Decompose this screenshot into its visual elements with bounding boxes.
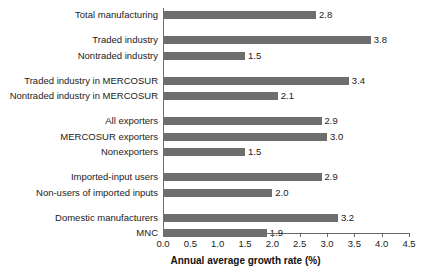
bar-value-label: 2.8 xyxy=(316,7,332,23)
bar-row: 3.4 xyxy=(163,77,409,85)
bar xyxy=(163,173,322,181)
category-label: All exporters xyxy=(0,116,158,126)
category-label: MNC xyxy=(0,228,158,238)
bar xyxy=(163,229,267,237)
x-axis-tick-mark xyxy=(300,233,301,237)
x-axis-tick-mark xyxy=(272,233,273,237)
x-axis-tick-mark xyxy=(409,233,410,237)
bar-row: 1.5 xyxy=(163,148,409,156)
plot-area: 2.83.81.53.42.12.93.01.52.92.03.21.9 xyxy=(163,8,409,233)
category-label: Imported-input users xyxy=(0,172,158,182)
bar-value-label: 3.0 xyxy=(327,129,343,145)
bar-row: 2.8 xyxy=(163,11,409,19)
bar-value-label: 2.9 xyxy=(322,113,338,129)
category-label: Domestic manufacturers xyxy=(0,213,158,223)
bar-value-label: 2.0 xyxy=(272,185,288,201)
bar-row: 2.1 xyxy=(163,92,409,100)
bar-row: 3.8 xyxy=(163,36,409,44)
bar-row: 3.2 xyxy=(163,214,409,222)
bar-row: 3.0 xyxy=(163,133,409,141)
bar-row: 2.0 xyxy=(163,189,409,197)
category-label: Non-users of imported inputs xyxy=(0,188,158,198)
category-label: MERCOSUR exporters xyxy=(0,132,158,142)
bar xyxy=(163,36,371,44)
x-axis-tick-mark xyxy=(190,233,191,237)
bar-value-label: 2.9 xyxy=(322,169,338,185)
category-label: Nontraded industry xyxy=(0,51,158,61)
x-axis-tick-mark xyxy=(382,233,383,237)
bar-chart: Total manufacturingTraded industryNontra… xyxy=(0,0,429,274)
bar-value-label: 1.5 xyxy=(245,48,261,64)
bar-value-label: 1.5 xyxy=(245,144,261,160)
bar-row: 1.5 xyxy=(163,52,409,60)
x-axis-tick-mark xyxy=(245,233,246,237)
bar-row: 2.9 xyxy=(163,117,409,125)
bar-value-label: 3.4 xyxy=(349,73,365,89)
bar xyxy=(163,77,349,85)
bar xyxy=(163,189,272,197)
x-axis-tick-mark xyxy=(218,233,219,237)
bar-row: 1.9 xyxy=(163,229,409,237)
category-label: Nonexporters xyxy=(0,147,158,157)
x-axis-tick-mark xyxy=(163,233,164,237)
bar-value-label: 3.8 xyxy=(371,32,387,48)
category-label: Traded industry xyxy=(0,35,158,45)
category-label: Total manufacturing xyxy=(0,10,158,20)
x-axis-tick-mark xyxy=(354,233,355,237)
bar xyxy=(163,92,278,100)
bar-value-label: 3.2 xyxy=(338,210,354,226)
x-axis-tick-mark xyxy=(327,233,328,237)
category-label: Traded industry in MERCOSUR xyxy=(0,76,158,86)
bar xyxy=(163,148,245,156)
x-axis-tick-label: 4.5 xyxy=(389,238,429,250)
category-label: Nontraded industry in MERCOSUR xyxy=(0,91,158,101)
bar xyxy=(163,214,338,222)
bar xyxy=(163,11,316,19)
bar xyxy=(163,133,327,141)
x-axis-title: Annual average growth rate (%) xyxy=(0,255,429,266)
bar xyxy=(163,52,245,60)
bar xyxy=(163,117,322,125)
bar-row: 2.9 xyxy=(163,173,409,181)
bar-value-label: 2.1 xyxy=(278,88,294,104)
